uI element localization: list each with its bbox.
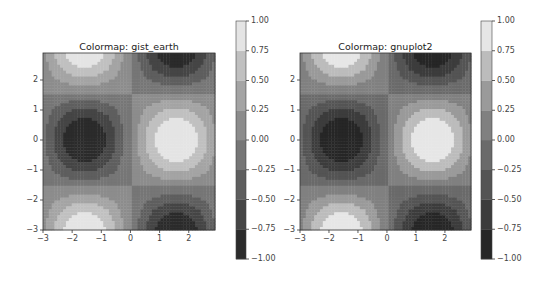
- tick-label: −3: [8, 225, 38, 234]
- tick-label: 0.50: [497, 76, 515, 85]
- tick-label: 0: [8, 135, 38, 144]
- colorbar-level: [481, 229, 492, 259]
- colorbar-level: [481, 170, 492, 200]
- tick-label: −1: [86, 234, 116, 243]
- tick-label: −1.00: [251, 254, 276, 263]
- tick-label: 0.75: [251, 46, 269, 55]
- colorbar-level: [236, 200, 246, 230]
- tick-label: −1: [265, 165, 295, 174]
- colorbar-level: [236, 51, 246, 81]
- tick-label: 1.00: [497, 16, 515, 25]
- colorbar-level: [481, 81, 492, 111]
- tick-label: −2: [314, 234, 344, 243]
- tick-label: 0: [115, 234, 145, 243]
- colorbar-level: [481, 21, 492, 51]
- tick-label: −2: [265, 195, 295, 204]
- colorbar-level: [236, 229, 246, 259]
- colorbar-level: [236, 21, 246, 51]
- tick-label: 2: [174, 234, 204, 243]
- colorbar-level: [236, 170, 246, 200]
- tick-label: −1: [343, 234, 373, 243]
- tick-label: −1.00: [497, 254, 522, 263]
- tick-label: −2: [57, 234, 87, 243]
- colorbar-level: [236, 110, 246, 140]
- tick-label: −0.50: [497, 195, 522, 204]
- tick-label: −2: [8, 195, 38, 204]
- contour-field: [43, 53, 215, 230]
- tick-label: −0.75: [497, 224, 522, 233]
- contour-field: [300, 53, 471, 230]
- tick-label: 1: [265, 105, 295, 114]
- colorbar-level: [481, 110, 492, 140]
- tick-label: 2: [8, 75, 38, 84]
- colorbar-level: [481, 140, 492, 170]
- tick-label: 0.00: [497, 135, 515, 144]
- colorbar-level: [481, 51, 492, 81]
- tick-label: −0.25: [497, 165, 522, 174]
- tick-label: −3: [28, 234, 58, 243]
- tick-label: 1.00: [251, 16, 269, 25]
- tick-label: 2: [265, 75, 295, 84]
- tick-label: 0: [265, 135, 295, 144]
- tick-label: 1: [8, 105, 38, 114]
- tick-label: 1: [401, 234, 431, 243]
- tick-label: 1: [145, 234, 175, 243]
- colorbar-level: [236, 81, 246, 111]
- tick-label: 2: [430, 234, 460, 243]
- tick-label: −3: [265, 225, 295, 234]
- tick-label: −3: [285, 234, 315, 243]
- colorbar-level: [236, 140, 246, 170]
- colorbar-level: [481, 200, 492, 230]
- tick-label: 0.25: [497, 105, 515, 114]
- tick-label: −1: [8, 165, 38, 174]
- tick-label: 0: [372, 234, 402, 243]
- tick-label: 0.75: [497, 46, 515, 55]
